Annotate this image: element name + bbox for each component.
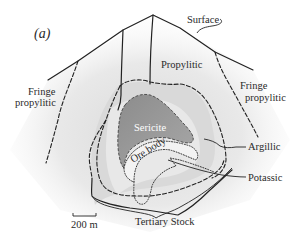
fringe-propylitic-left-line1: Fringe: [28, 86, 56, 97]
tertiary-stock-label: Tertiary Stock: [135, 216, 195, 227]
surface-label: Surface: [187, 14, 219, 25]
scale-bar: 200 m: [71, 213, 98, 230]
argillic-label: Argillic: [248, 141, 281, 152]
sericite-label: Sericite: [134, 122, 166, 133]
fringe-propylitic-right-line2: propylitic: [245, 92, 286, 103]
propylitic-label: Propylitic: [161, 59, 203, 70]
panel-label: (a): [34, 26, 51, 42]
scale-bar-label: 200 m: [71, 219, 98, 230]
alteration-zone-diagram: (a) Surface Propylitic Fringe propylitic…: [0, 0, 301, 237]
potassic-label: Potassic: [248, 172, 283, 183]
fringe-propylitic-right-line1: Fringe: [240, 80, 268, 91]
fringe-propylitic-left-line2: propylitic: [15, 97, 56, 108]
